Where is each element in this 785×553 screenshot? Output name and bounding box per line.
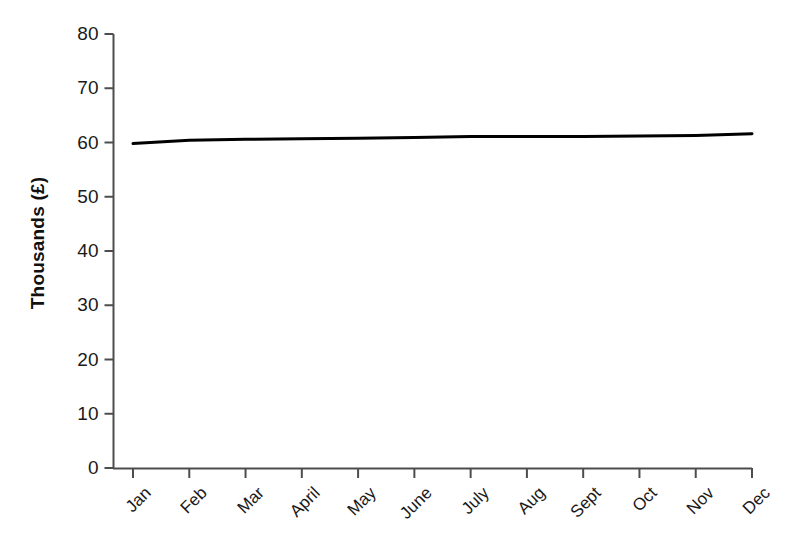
- plot-area: [0, 0, 785, 553]
- data-series-group: [133, 134, 752, 144]
- axes-group: [113, 34, 752, 469]
- data-series-line: [133, 134, 752, 144]
- chart-container: Thousands (£) 01020304050607080 JanFebMa…: [0, 0, 785, 553]
- y-axis-ticks: [105, 34, 114, 468]
